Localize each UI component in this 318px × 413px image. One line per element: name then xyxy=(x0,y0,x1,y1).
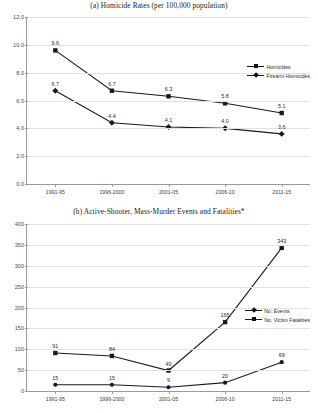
data-point-label: 91 xyxy=(52,343,58,349)
y-axis-tick-label: 2.0 xyxy=(16,153,24,159)
data-point-label: 69 xyxy=(279,352,285,358)
data-point-marker xyxy=(53,351,57,355)
data-point-label: 6.3 xyxy=(165,86,173,92)
data-point-marker xyxy=(53,48,57,52)
x-axis-tick-mark xyxy=(55,184,56,187)
y-axis-tick-mark xyxy=(25,370,28,371)
y-axis-tick-mark xyxy=(25,17,28,18)
y-axis-tick-label: 6.0 xyxy=(16,98,24,104)
gridline xyxy=(27,224,310,225)
y-axis-tick-mark xyxy=(25,391,28,392)
data-point-label: 6.7 xyxy=(52,81,60,87)
series-line xyxy=(55,50,281,113)
y-axis-tick-label: 4.0 xyxy=(16,125,24,131)
y-axis-tick-label: 400 xyxy=(15,221,24,227)
data-point-label: 3.6 xyxy=(278,124,286,130)
data-point-marker xyxy=(53,383,57,387)
y-axis-tick-mark xyxy=(25,224,28,225)
gridline xyxy=(27,45,310,46)
x-axis-tick-mark xyxy=(225,184,226,187)
data-point-label: 6.7 xyxy=(108,81,116,87)
x-axis-tick-label: 2011-15 xyxy=(272,189,291,195)
y-axis-tick-mark xyxy=(25,156,28,157)
y-axis-tick-label: 12.0 xyxy=(13,14,24,20)
data-point-label: 15 xyxy=(109,375,115,381)
y-axis-tick-label: 150 xyxy=(15,325,24,331)
x-axis-tick-label: 2006-10 xyxy=(216,396,235,402)
x-axis-tick-label: 1996-2000 xyxy=(99,189,124,195)
legend-label-no-events: No. Events xyxy=(264,308,289,314)
legend-item-homicides[interactable]: Homicides xyxy=(247,62,310,71)
gridline xyxy=(27,128,310,129)
data-point-marker xyxy=(110,354,114,358)
data-point-marker xyxy=(166,385,170,389)
data-point-marker xyxy=(280,111,284,115)
y-axis-tick-mark xyxy=(25,184,28,185)
data-point-marker xyxy=(223,320,227,324)
y-axis-tick-mark xyxy=(25,101,28,102)
x-axis-tick-mark xyxy=(112,391,113,394)
data-point-marker xyxy=(110,89,114,93)
y-axis-tick-mark xyxy=(25,287,28,288)
data-point-marker xyxy=(166,94,170,98)
y-axis-tick-mark xyxy=(25,245,28,246)
data-point-label: 165 xyxy=(221,312,230,318)
x-axis-tick-label: 2011-15 xyxy=(272,396,291,402)
data-point-label: 343 xyxy=(277,238,286,244)
y-axis-tick-label: 50 xyxy=(18,367,24,373)
x-axis-tick-label: 2006-10 xyxy=(216,189,235,195)
y-axis-tick-mark xyxy=(25,128,28,129)
y-axis-tick-mark xyxy=(25,308,28,309)
data-point-label: 5.8 xyxy=(221,93,229,99)
x-axis-tick-label: 1991-95 xyxy=(46,396,65,402)
data-point-marker xyxy=(223,101,227,105)
gridline xyxy=(27,328,310,329)
data-point-label: 9.6 xyxy=(52,40,60,46)
x-axis-tick-mark xyxy=(55,391,56,394)
legend-item-firearm-homicides[interactable]: Firearm Homicides xyxy=(247,71,310,80)
data-point-marker xyxy=(280,360,284,364)
y-axis-tick-mark xyxy=(25,73,28,74)
data-point-label: 84 xyxy=(109,346,115,352)
gridline xyxy=(27,17,310,18)
x-axis-tick-label: 1991-95 xyxy=(46,189,65,195)
y-axis-tick-mark xyxy=(25,45,28,46)
x-axis-tick-mark xyxy=(112,184,113,187)
legend-item-no-events[interactable]: No. Events xyxy=(245,306,310,315)
data-point-label: 4.0 xyxy=(221,118,229,124)
gridline xyxy=(27,101,310,102)
legend-label-firearm-homicides: Firearm Homicides xyxy=(266,73,310,79)
y-axis-tick-label: 0.0 xyxy=(16,181,24,187)
data-point-label: 15 xyxy=(52,375,58,381)
data-point-label: 20 xyxy=(222,373,228,379)
chart-a-legend: Homicides Firearm Homicides xyxy=(247,62,310,80)
data-point-marker xyxy=(110,383,114,387)
legend-label-no-victim-fatalities: No. Victim Fatalities xyxy=(264,317,310,323)
chart-b-legend: No. Events No. Victim Fatalities xyxy=(245,306,310,324)
y-axis-tick-label: 100 xyxy=(15,346,24,352)
x-axis-tick-mark xyxy=(282,391,283,394)
data-point-marker xyxy=(279,131,285,137)
y-axis-tick-mark xyxy=(25,266,28,267)
data-point-label: 49 xyxy=(166,361,172,367)
legend-item-no-victim-fatalities[interactable]: No. Victim Fatalities xyxy=(245,315,310,324)
data-point-label: 9 xyxy=(167,377,170,383)
x-axis-tick-label: 2001-05 xyxy=(159,396,178,402)
legend-label-homicides: Homicides xyxy=(266,64,290,70)
y-axis-tick-label: 200 xyxy=(15,305,24,311)
gridline xyxy=(27,287,310,288)
data-point-marker xyxy=(109,120,115,126)
chart-a-title: (a) Homicide Rates (per 100,000 populati… xyxy=(0,1,318,10)
chart-panel-a: (a) Homicide Rates (per 100,000 populati… xyxy=(0,0,318,206)
legend-marker-diamond-icon xyxy=(247,72,264,79)
gridline xyxy=(27,266,310,267)
gridline xyxy=(27,349,310,350)
data-point-marker xyxy=(52,88,58,94)
gridline xyxy=(27,370,310,371)
x-axis-tick-label: 1996-2000 xyxy=(99,396,124,402)
y-axis-tick-label: 350 xyxy=(15,242,24,248)
legend-marker-square-icon xyxy=(247,63,264,70)
y-axis-tick-label: 300 xyxy=(15,263,24,269)
gridline xyxy=(27,156,310,157)
chart-a-plot-area: 0.02.04.06.08.010.012.01991-951996-20002… xyxy=(26,17,310,185)
